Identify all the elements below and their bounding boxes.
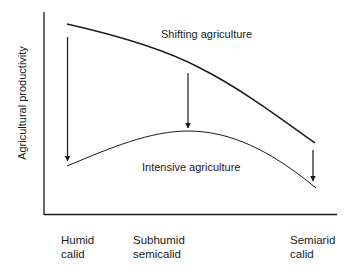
x-category-line1: Subhumid — [133, 233, 185, 247]
y-axis-label: Agricultural productivity — [16, 46, 28, 160]
x-category-line2: calid — [61, 247, 94, 261]
x-category-subhumid: Subhumid semicalid — [133, 233, 185, 261]
x-category-humid: Humid calid — [61, 233, 94, 261]
x-category-line2: semicalid — [133, 247, 185, 261]
shifting-agriculture-label: Shifting agriculture — [161, 27, 252, 41]
x-category-line2: calid — [290, 247, 335, 261]
x-category-line1: Semiarid — [290, 233, 335, 247]
x-category-semiarid: Semiarid calid — [290, 233, 335, 261]
intensive-agriculture-label: Intensive agriculture — [142, 160, 240, 174]
x-category-line1: Humid — [61, 233, 94, 247]
shifting-agriculture-curve — [67, 24, 315, 143]
